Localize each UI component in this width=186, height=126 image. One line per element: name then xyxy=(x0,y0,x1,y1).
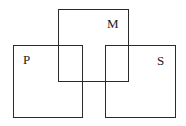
set-s-label: S xyxy=(157,54,164,67)
set-p-label: P xyxy=(23,53,30,66)
set-s-box xyxy=(105,45,176,118)
set-m-label: M xyxy=(107,17,119,30)
venn-diagram: M P S xyxy=(0,0,186,126)
